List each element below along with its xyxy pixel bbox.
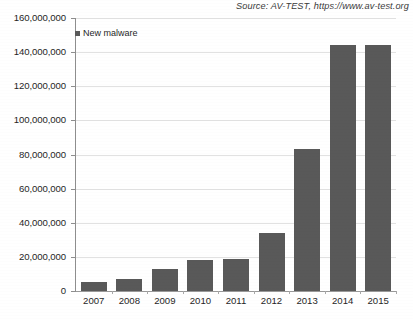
bar-2009 (152, 269, 178, 291)
x-tick-mark (360, 291, 361, 294)
bar-2011 (223, 259, 249, 291)
x-tick-label-2011: 2011 (218, 295, 254, 306)
bar-2013 (294, 149, 320, 291)
x-tick-mark (112, 291, 113, 294)
x-tick-label-2013: 2013 (289, 295, 325, 306)
x-tick-label-2009: 2009 (147, 295, 183, 306)
gridline-0 (76, 291, 396, 292)
x-tick-label-2007: 2007 (76, 295, 112, 306)
y-tick-label: 100,000,000 (14, 114, 66, 125)
y-tick-label: 40,000,000 (19, 217, 66, 228)
bar-2014 (330, 45, 356, 291)
malware-bar-chart: Source: AV-TEST, https://www.av-test.org… (0, 0, 413, 319)
x-tick-label-2008: 2008 (112, 295, 148, 306)
legend-swatch-new-malware (75, 31, 80, 36)
bar-2010 (187, 260, 213, 291)
x-tick-label-2014: 2014 (325, 295, 361, 306)
x-tick-mark (254, 291, 255, 294)
y-tick-label: 80,000,000 (19, 149, 66, 160)
y-tick-label: 0 (61, 285, 66, 296)
bar-2007 (81, 282, 107, 291)
x-tick-mark (325, 291, 326, 294)
x-tick-mark (218, 291, 219, 294)
plot-area (76, 18, 396, 291)
x-tick-mark (396, 291, 397, 294)
chart-source-note: Source: AV-TEST, https://www.av-test.org (236, 1, 409, 11)
y-tick-label: 140,000,000 (14, 46, 66, 57)
x-tick-mark (183, 291, 184, 294)
y-tick-label: 120,000,000 (14, 80, 66, 91)
x-tick-label-2010: 2010 (183, 295, 219, 306)
bar-2012 (259, 233, 285, 291)
gridline-160000000 (76, 18, 396, 19)
x-tick-mark (147, 291, 148, 294)
bar-2008 (116, 279, 142, 291)
bar-2015 (365, 45, 391, 291)
y-tick-label: 160,000,000 (14, 12, 66, 23)
y-tick-label: 60,000,000 (19, 183, 66, 194)
x-tick-mark (289, 291, 290, 294)
chart-legend: New malware (74, 27, 141, 39)
legend-label-new-malware: New malware (83, 28, 138, 38)
x-tick-label-2015: 2015 (360, 295, 396, 306)
y-tick-label: 20,000,000 (19, 251, 66, 262)
x-tick-label-2012: 2012 (254, 295, 290, 306)
